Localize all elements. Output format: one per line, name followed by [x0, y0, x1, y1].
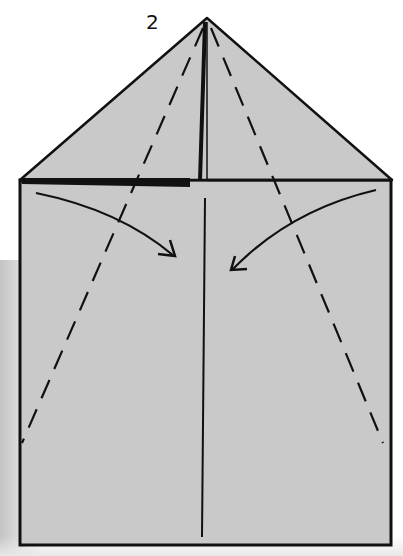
step-number: 2: [146, 10, 159, 34]
origami-diagram: [0, 0, 403, 556]
